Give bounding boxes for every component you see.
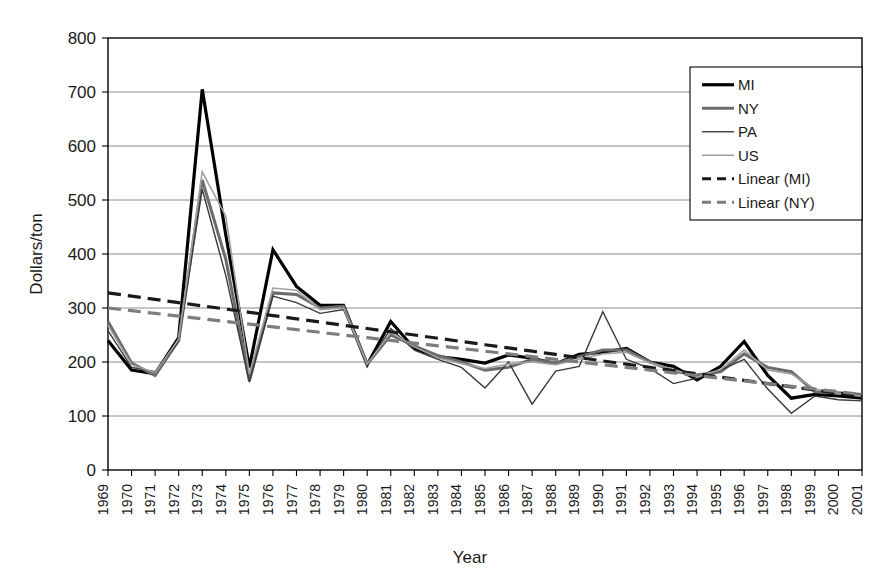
x-tick-label: 1980 <box>354 484 370 515</box>
x-tick-label: 1992 <box>637 484 653 515</box>
x-tick-label: 1976 <box>260 484 276 515</box>
y-tick-label: 600 <box>68 137 96 156</box>
x-tick-label: 1984 <box>448 484 464 515</box>
y-tick-label: 400 <box>68 245 96 264</box>
x-tick-label: 1983 <box>425 484 441 515</box>
y-tick-label: 0 <box>87 461 96 480</box>
x-tick-label: 1975 <box>236 484 252 515</box>
x-tick-label: 1982 <box>401 484 417 515</box>
x-tick-label: 1999 <box>802 484 818 515</box>
y-tick-label: 700 <box>68 83 96 102</box>
y-axis-tick-labels: 0100200300400500600700800 <box>68 29 96 480</box>
x-tick-label: 1971 <box>142 484 158 515</box>
x-tick-label: 1988 <box>543 484 559 515</box>
legend-label: MI <box>738 76 755 93</box>
x-tick-label: 1977 <box>284 484 300 515</box>
x-tick-label: 1990 <box>590 484 606 515</box>
chart-container: 0100200300400500600700800 19691970197119… <box>0 0 892 586</box>
y-tick-label: 500 <box>68 191 96 210</box>
x-tick-label: 1979 <box>331 484 347 515</box>
x-tick-label: 1997 <box>755 484 771 515</box>
y-tick-label: 800 <box>68 29 96 48</box>
x-tick-label: 1974 <box>213 484 229 515</box>
x-tick-label: 1969 <box>95 484 111 515</box>
x-tick-label: 1981 <box>378 484 394 515</box>
y-tick-label: 100 <box>68 407 96 426</box>
x-tick-label: 1989 <box>566 484 582 515</box>
x-tick-label: 1993 <box>661 484 677 515</box>
y-axis-title: Dollars/ton <box>27 213 46 294</box>
x-tick-label: 2001 <box>849 484 865 515</box>
x-tick-label: 1986 <box>496 484 512 515</box>
y-tick-label: 300 <box>68 299 96 318</box>
legend-label: NY <box>738 100 759 117</box>
legend-label: US <box>738 147 759 164</box>
x-tick-label: 1987 <box>519 484 535 515</box>
x-tick-label: 1978 <box>307 484 323 515</box>
x-tick-label: 1991 <box>613 484 629 515</box>
legend-label: Linear (MI) <box>738 170 811 187</box>
y-tick-label: 200 <box>68 353 96 372</box>
x-tick-label: 1994 <box>684 484 700 515</box>
x-tick-label: 1985 <box>472 484 488 515</box>
legend-label: PA <box>738 123 757 140</box>
x-tick-label: 2000 <box>825 484 841 515</box>
x-axis-title: Year <box>453 548 488 567</box>
x-tick-label: 1973 <box>189 484 205 515</box>
x-tick-label: 1996 <box>731 484 747 515</box>
legend-label: Linear (NY) <box>738 194 815 211</box>
x-tick-label: 1995 <box>708 484 724 515</box>
x-tick-label: 1970 <box>119 484 135 515</box>
x-tick-label: 1972 <box>166 484 182 515</box>
line-chart: 0100200300400500600700800 19691970197119… <box>0 0 892 586</box>
x-tick-label: 1998 <box>778 484 794 515</box>
chart-legend: MINYPAUSLinear (MI)Linear (NY) <box>690 67 862 220</box>
